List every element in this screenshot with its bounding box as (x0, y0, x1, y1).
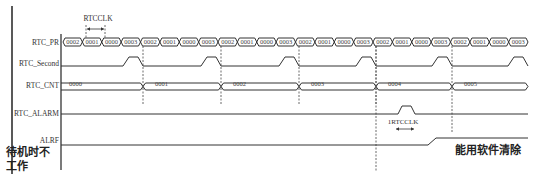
signal-label-rtc-cnt: RTC_CNT (26, 81, 59, 90)
pr-value: 0000 (415, 38, 428, 45)
pr-value: 0001 (163, 38, 176, 45)
pr-value: 0001 (396, 38, 409, 45)
rtc-second-waveform (61, 57, 528, 66)
pr-value: 0002 (454, 38, 467, 45)
pr-value: 0000 (105, 38, 118, 45)
pr-value: 0000 (337, 38, 350, 45)
standby-note-line2: 工作 (6, 159, 28, 173)
rtc-alarm-waveform (61, 106, 528, 114)
cnt-value: 0004 (388, 80, 402, 87)
cnt-value: 0002 (233, 80, 246, 87)
pr-value: 0000 (260, 38, 273, 45)
pr-value: 0002 (376, 38, 389, 45)
timing-diagram: RTC_PR RTC_Second RTC_CNT RTC_ALARM ALRF… (0, 0, 540, 174)
signal-label-rtc-pr: RTC_PR (32, 38, 59, 47)
pr-value: 0001 (473, 38, 486, 45)
cnt-value: 0001 (155, 80, 168, 87)
rtcclk-label-bottom: 1RTCCLK (388, 118, 419, 126)
pr-value: 0003 (279, 38, 292, 45)
pr-value: 0003 (202, 38, 215, 45)
software-clear-note: 能用软件清除 (455, 143, 522, 157)
cnt-value: 0000 (69, 80, 82, 87)
pr-value: 0001 (318, 38, 331, 45)
signal-label-alrf: ALRF (40, 136, 59, 145)
rtc-pr-bus: 0002000100000003000200010000000300020001… (63, 38, 528, 46)
rtc-cnt-bus: 000000010002000300040005 (61, 80, 528, 91)
pr-value: 0001 (86, 38, 99, 45)
pr-value: 0003 (357, 38, 370, 45)
second-pulse-train (61, 57, 528, 66)
pr-value: 0000 (492, 38, 505, 45)
second-boundary-markers (143, 46, 452, 172)
cnt-value: 0005 (464, 80, 477, 87)
pr-value: 0002 (299, 38, 312, 45)
pr-value: 0002 (144, 38, 157, 45)
pr-value: 0003 (512, 38, 525, 45)
pr-value: 0003 (124, 38, 137, 45)
pr-value: 0002 (66, 38, 79, 45)
signal-label-rtc-second: RTC_Second (19, 59, 59, 68)
pr-value: 0002 (221, 38, 234, 45)
pr-value: 0003 (434, 38, 447, 45)
pr-value: 0000 (182, 38, 195, 45)
signal-label-rtc-alarm: RTC_ALARM (14, 109, 59, 118)
pr-value: 0001 (241, 38, 254, 45)
rtcclk-label-top: RTCCLK (83, 14, 113, 23)
standby-note-line1: 待机时不 (5, 145, 50, 159)
cnt-value: 0003 (311, 80, 324, 87)
